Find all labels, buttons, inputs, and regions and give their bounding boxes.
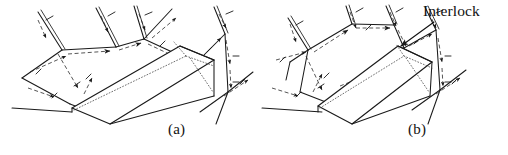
panel-b-linework bbox=[262, 5, 466, 124]
panel-a-linework bbox=[12, 6, 253, 124]
interlock-annotation-label: Interlock bbox=[423, 2, 480, 20]
panel-label-a: (a) bbox=[168, 121, 185, 138]
panel-b-block bbox=[318, 44, 432, 124]
figure-linework bbox=[0, 0, 508, 155]
figure-root: Interlock (a) (b) bbox=[0, 0, 508, 155]
panel-label-b: (b) bbox=[408, 121, 426, 138]
panel-a-block bbox=[72, 42, 214, 124]
